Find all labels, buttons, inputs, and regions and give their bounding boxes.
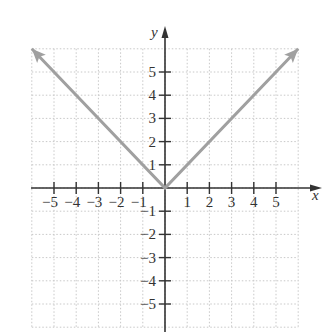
y-tick-label: −4 bbox=[140, 273, 156, 289]
y-tick-label: 5 bbox=[149, 64, 157, 80]
y-tick-label: 4 bbox=[149, 87, 157, 103]
y-tick-label: −3 bbox=[140, 250, 156, 266]
y-tick-label: 3 bbox=[149, 110, 157, 126]
y-tick-label: −2 bbox=[140, 226, 156, 242]
x-tick-label: 1 bbox=[183, 194, 191, 210]
x-tick-label: 5 bbox=[272, 194, 280, 210]
y-tick-label: −1 bbox=[140, 203, 156, 219]
absolute-value-graph: −5−4−3−2−112345−5−4−3−2−112345 x y bbox=[0, 0, 335, 336]
x-tick-label: −4 bbox=[64, 194, 80, 210]
y-axis-label: y bbox=[149, 24, 158, 40]
x-tick-label: −2 bbox=[109, 194, 125, 210]
x-tick-label: −5 bbox=[42, 194, 58, 210]
x-tick-label: 3 bbox=[228, 194, 236, 210]
y-tick-label: −5 bbox=[140, 296, 156, 312]
x-tick-label: 2 bbox=[206, 194, 214, 210]
x-tick-label: −3 bbox=[86, 194, 102, 210]
x-tick-label: 4 bbox=[250, 194, 258, 210]
y-tick-label: 2 bbox=[149, 134, 157, 150]
y-axis-arrow-icon bbox=[162, 26, 169, 38]
x-axis-label: x bbox=[311, 187, 319, 203]
